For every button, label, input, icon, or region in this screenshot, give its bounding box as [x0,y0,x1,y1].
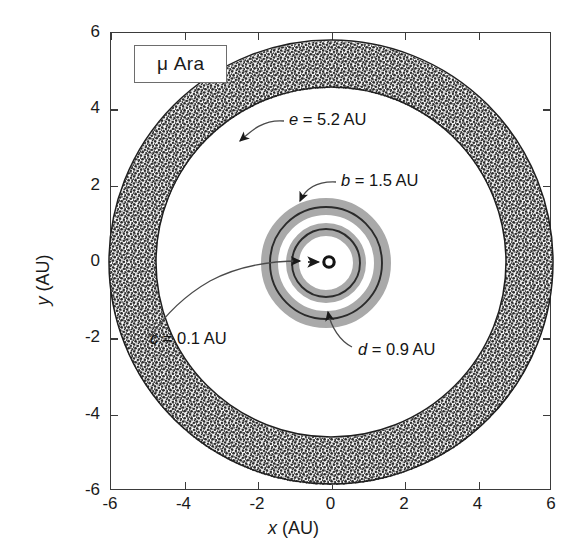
annotation-c: c = 0.1 AU [150,329,227,348]
y-tick-label: 2 [66,175,100,195]
x-tick-label: -6 [102,494,117,514]
x-tick-label: 0 [326,494,335,514]
x-tick-label: -2 [249,494,264,514]
annotation-e-var: e [289,110,298,128]
x-axis-title-unit: (AU) [277,518,319,538]
y-tick-label: -6 [66,480,100,500]
system-label-text: μ Ara [157,53,204,74]
y-tick-label: 6 [66,22,100,42]
leader-line-b [300,182,336,201]
x-tick-label: 4 [473,494,482,514]
y-axis-title-unit: (AU) [33,255,53,297]
annotation-e-value: = 5.2 AU [298,110,366,128]
orbit-diagram [0,0,587,560]
annotation-b-var: b [341,171,350,189]
annotation-e: e = 5.2 AU [289,110,367,129]
annotation-d-var: d [358,340,367,358]
x-tick-label: -4 [176,494,191,514]
annotation-b-value: = 1.5 AU [350,171,418,189]
x-tick-label: 2 [399,494,408,514]
y-axis-title: y (AU) [33,255,54,306]
x-tick-label: 6 [546,494,555,514]
annotation-c-var: c [150,329,158,347]
y-tick-label: 4 [66,98,100,118]
annotation-d-value: = 0.9 AU [367,340,435,358]
central-star [324,257,334,267]
annotation-d: d = 0.9 AU [358,340,436,359]
y-axis-title-var: y [33,297,53,306]
system-label-box: μ Ara [134,45,227,83]
x-axis-title-var: x [268,518,277,538]
y-tick-label: -4 [66,404,100,424]
annotation-b: b = 1.5 AU [341,171,419,190]
y-tick-label: 0 [66,251,100,271]
leader-line-e [240,121,284,141]
annotation-c-value: = 0.1 AU [158,329,226,347]
y-tick-label: -2 [66,327,100,347]
x-axis-title: x (AU) [268,518,319,539]
figure-panel: μ Ara e = 5.2 AU b = 1.5 AU c = 0.1 AU d… [0,0,587,560]
